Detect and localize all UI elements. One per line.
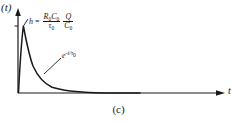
exp-exponent: -t/τ0 bbox=[66, 50, 76, 56]
peak-formula-equals: = bbox=[35, 18, 40, 26]
symbol-c-subscript: 0 bbox=[70, 25, 73, 31]
exp-exponent-subscript: 0 bbox=[73, 52, 76, 58]
peak-leader-line bbox=[24, 19, 28, 26]
y-axis-arrowhead bbox=[15, 8, 21, 16]
x-axis-label: t bbox=[228, 86, 231, 96]
y-axis-label: (t) bbox=[1, 2, 11, 13]
impulse-response-figure: (t) t h = R0C0 τ0 Q C0 e-t/τ0 (c) bbox=[0, 0, 237, 123]
fraction-denominator: τ0 bbox=[48, 22, 56, 30]
fraction-numerator: Q bbox=[64, 13, 72, 21]
symbol-q: Q bbox=[65, 12, 71, 21]
symbol-c: C bbox=[64, 21, 69, 30]
exp-exponent-text: -t/τ bbox=[66, 50, 73, 56]
impulse-response-curve bbox=[19, 26, 141, 93]
decay-leader-line bbox=[44, 58, 61, 74]
peak-amplitude-formula: h = R0C0 τ0 Q C0 bbox=[29, 13, 74, 30]
exponential-decay-label: e-t/τ0 bbox=[62, 52, 76, 60]
symbol-c: C bbox=[51, 12, 56, 21]
figure-caption: (c) bbox=[0, 103, 237, 115]
symbol-tau-subscript: 0 bbox=[51, 25, 54, 31]
fraction-r0c0-over-tau0: R0C0 τ0 bbox=[43, 13, 61, 30]
symbol-r-subscript: 0 bbox=[48, 16, 51, 22]
symbol-c-subscript: 0 bbox=[57, 16, 60, 22]
fraction-denominator: C0 bbox=[63, 22, 73, 30]
x-axis-arrowhead bbox=[216, 90, 225, 96]
peak-formula-lhs: h bbox=[29, 18, 33, 26]
fraction-q-over-c0: Q C0 bbox=[63, 13, 73, 30]
fraction-numerator: R0C0 bbox=[43, 13, 61, 21]
